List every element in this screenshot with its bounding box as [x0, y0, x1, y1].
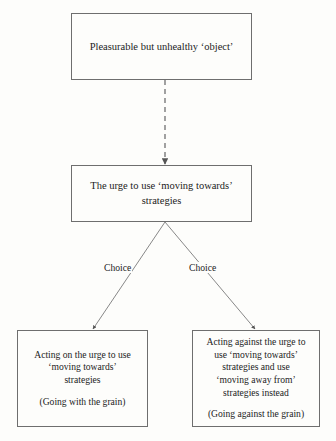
flowchart-diagram: Pleasurable but unhealthy ‘object’ The u… — [0, 0, 336, 441]
node-acting-against-urge-line-1: Acting against the urge to — [207, 336, 306, 349]
node-urge-moving-towards: The urge to use ‘moving towards’ strateg… — [71, 165, 252, 222]
node-acting-on-urge: Acting on the urge to use ‘moving toward… — [17, 330, 148, 427]
node-pleasurable-object-line-1: Pleasurable but unhealthy ‘object’ — [90, 40, 234, 54]
edge-label-choice-right: Choice — [188, 262, 217, 273]
node-acting-on-urge-line-1: Acting on the urge to use — [34, 349, 131, 362]
node-acting-against-urge-line-5: strategies instead — [223, 387, 289, 400]
node-acting-on-urge-line-2: ‘moving towards’ — [48, 361, 116, 374]
edge-label-choice-left: Choice — [103, 262, 132, 273]
node-acting-against-urge-note: (Going against the grain) — [208, 408, 304, 421]
node-urge-moving-towards-line-2: strategies — [142, 194, 182, 209]
edge-urge-to-acting-against — [165, 222, 255, 329]
node-acting-on-urge-line-3: strategies — [64, 374, 100, 387]
node-pleasurable-object: Pleasurable but unhealthy ‘object’ — [71, 13, 252, 80]
edge-urge-to-acting-on — [93, 222, 165, 329]
node-acting-against-urge: Acting against the urge to use ‘moving t… — [192, 330, 320, 427]
node-acting-against-urge-line-4: ‘moving away from’ — [216, 374, 295, 387]
node-acting-against-urge-line-3: strategies and use — [222, 361, 290, 374]
node-acting-against-urge-line-2: use ‘moving towards’ — [214, 349, 298, 362]
node-urge-moving-towards-line-1: The urge to use ‘moving towards’ — [90, 179, 232, 194]
node-acting-on-urge-note: (Going with the grain) — [39, 396, 125, 409]
